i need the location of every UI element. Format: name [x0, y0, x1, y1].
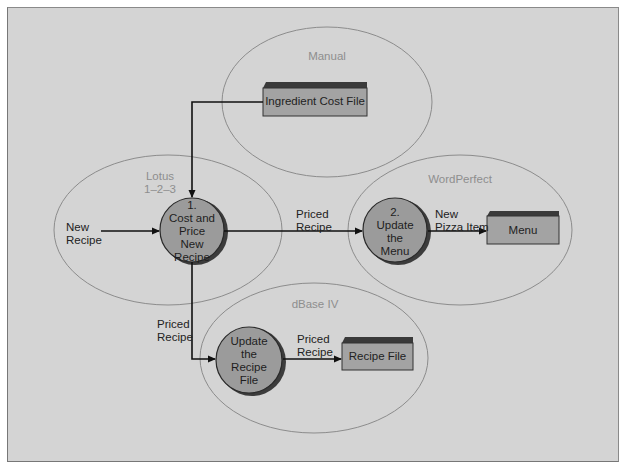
- process-3-line: the: [219, 348, 279, 361]
- new-pizza-item-flow-label: New Pizza Item: [435, 208, 489, 234]
- flow-label-line: New: [435, 208, 489, 221]
- flow-label-line: Recipe: [296, 221, 332, 234]
- process-1-number: 1.: [162, 199, 222, 212]
- flow-label-line: New: [66, 221, 102, 234]
- process-2-line: the: [365, 232, 425, 245]
- manual-label: Manual: [297, 50, 357, 63]
- flow-label-line: Recipe: [157, 331, 193, 344]
- process-2-label: 2. Update the Menu: [365, 206, 425, 258]
- process-3-line: Recipe: [219, 361, 279, 374]
- ingredient-cost-file-label: Ingredient Cost File: [263, 95, 367, 107]
- process-1-label: 1. Cost and Price New Recipe: [162, 199, 222, 264]
- flow-priced-recipe-down: [192, 262, 215, 359]
- process-1-line: New: [162, 238, 222, 251]
- lotus-label-line1: Lotus: [135, 170, 185, 183]
- flow-label-line: Pizza Item: [435, 221, 489, 234]
- flow-ingredient-cost: [192, 102, 263, 197]
- process-3-line: Update: [219, 335, 279, 348]
- process-2-number: 2.: [365, 206, 425, 219]
- lotus-label-line2: 1–2–3: [135, 183, 185, 196]
- dbase-label: dBase IV: [280, 298, 350, 311]
- lotus-label: Lotus 1–2–3: [135, 170, 185, 196]
- flow-label-line: Priced: [157, 318, 193, 331]
- priced-recipe-down-flow-label: Priced Recipe: [157, 318, 193, 344]
- process-1-line: Cost and: [162, 212, 222, 225]
- process-3-label: Update the Recipe File: [219, 335, 279, 387]
- wordperfect-label: WordPerfect: [420, 173, 500, 186]
- process-3-line: File: [219, 374, 279, 387]
- priced-recipe-to-file-flow-label: Priced Recipe: [297, 333, 333, 359]
- flow-label-line: Recipe: [297, 346, 333, 359]
- process-1-line: Price: [162, 225, 222, 238]
- process-2-line: Menu: [365, 245, 425, 258]
- flow-label-line: Recipe: [66, 234, 102, 247]
- menu-label: Menu: [487, 224, 559, 236]
- priced-recipe-to-menu-flow-label: Priced Recipe: [296, 208, 332, 234]
- flow-label-line: Priced: [297, 333, 333, 346]
- new-recipe-flow-label: New Recipe: [66, 221, 102, 247]
- process-1-line: Recipe: [162, 251, 222, 264]
- recipe-file-label: Recipe File: [342, 350, 413, 362]
- process-2-line: Update: [365, 219, 425, 232]
- flow-label-line: Priced: [296, 208, 332, 221]
